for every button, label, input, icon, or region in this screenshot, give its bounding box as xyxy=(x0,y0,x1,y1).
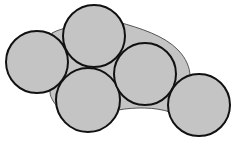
circle-bottom-center xyxy=(56,68,120,132)
diagram-canvas xyxy=(0,0,234,141)
circle-cluster-diagram xyxy=(0,0,234,141)
circle-group xyxy=(6,5,230,136)
circle-left xyxy=(6,31,68,93)
circle-top xyxy=(63,5,125,67)
circle-far-right xyxy=(168,74,230,136)
circle-right-center xyxy=(114,43,176,105)
